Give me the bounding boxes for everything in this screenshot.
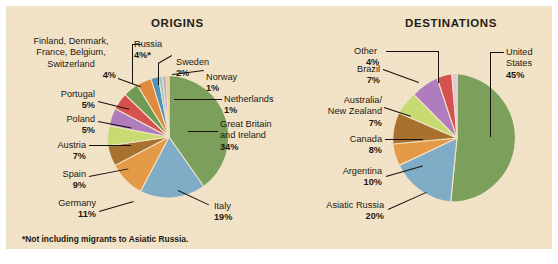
label-line-2: and Ireland (220, 130, 288, 141)
label-pct: 7% (14, 151, 86, 162)
label-text: Austria (14, 140, 86, 151)
label-destinations-brazil: Brazil 7% (312, 64, 380, 87)
leader-destinations-other-horizontal (386, 51, 438, 52)
leader-origins-russia (132, 44, 133, 84)
label-pct: 1% (206, 83, 260, 94)
label-origins-poland: Poland 5% (20, 114, 95, 137)
label-pct: 20% (294, 211, 384, 222)
label-origins-italy: Italy 19% (214, 201, 274, 224)
label-origins-austria: Austria 7% (14, 140, 86, 163)
label-pct: 5% (20, 125, 95, 136)
figure-panel: ORIGINS (6, 6, 552, 249)
label-pct: 10% (306, 177, 382, 188)
leader-origins-great-britain (188, 131, 218, 132)
label-origins-great-britain: Great Britain and Ireland 34% (220, 119, 288, 153)
pie-slice-united-states (451, 74, 516, 203)
label-line-2: States (506, 58, 558, 69)
label-pct: 1% (224, 105, 294, 116)
leader-destinations-united-states-horizontal (490, 52, 504, 53)
label-text: Brazil (312, 64, 380, 75)
leader-origins-sweden-vertical (158, 63, 159, 85)
leader-destinations-united-states (490, 52, 491, 137)
label-line-3: Switzerland (12, 59, 130, 70)
label-origins-germany: Germany 11% (20, 198, 96, 221)
label-pct: 5% (20, 100, 95, 111)
label-text: Argentina (306, 166, 382, 177)
label-line-2: France, Belgium, (12, 47, 130, 58)
label-text: Spain (20, 169, 86, 180)
label-text: Asiatic Russia (294, 200, 384, 211)
label-pct: 34% (220, 142, 288, 153)
leader-destinations-canada (385, 139, 423, 140)
label-destinations-australia-new-zealand: Australia/ New Zealand 7% (302, 95, 382, 129)
label-line-1: United (506, 47, 558, 58)
leader-origins-austria (89, 145, 131, 146)
label-pct: 9% (20, 180, 86, 191)
label-line-2: New Zealand (302, 106, 382, 117)
label-destinations-united-states: United States 45% (506, 47, 558, 81)
label-text: Netherlands (224, 94, 294, 105)
leader-origins-russia-horizontal (132, 44, 142, 45)
figure-root: ORIGINS (0, 0, 558, 264)
label-origins-russia: Russia 4%* (134, 39, 186, 62)
label-origins-portugal: Portugal 5% (20, 89, 95, 112)
label-destinations-canada: Canada 8% (312, 134, 382, 157)
pie-chart-destinations (387, 68, 527, 208)
label-origins-netherlands: Netherlands 1% (224, 94, 294, 117)
label-pct: 7% (302, 118, 382, 129)
label-text: Portugal (20, 89, 95, 100)
label-pct: 19% (214, 212, 274, 223)
chart-title-origins: ORIGINS (151, 17, 204, 29)
label-pct: 7% (312, 75, 380, 86)
label-pct: 4% (12, 70, 130, 81)
label-origins-spain: Spain 9% (20, 169, 86, 192)
label-text: Germany (20, 198, 96, 209)
label-text: Poland (20, 114, 95, 125)
label-pct: 45% (506, 70, 558, 81)
label-destinations-argentina: Argentina 10% (306, 166, 382, 189)
label-line-1: Finland, Denmark, (12, 36, 130, 47)
leader-destinations-other (438, 51, 439, 83)
label-pct: 4%* (134, 50, 186, 61)
label-origins-finland-group: Finland, Denmark, France, Belgium, Switz… (12, 36, 130, 82)
label-destinations-asiatic-russia: Asiatic Russia 20% (294, 200, 384, 223)
label-line-1: Great Britain (220, 119, 288, 130)
label-pct: 8% (312, 145, 382, 156)
label-line-1: Australia/ (302, 95, 382, 106)
leader-origins-netherlands (174, 99, 222, 100)
label-pct: 11% (20, 209, 96, 220)
label-pct: 2% (176, 68, 228, 79)
chart-title-destinations: DESTINATIONS (405, 17, 497, 29)
footnote: *Not including migrants to Asiatic Russi… (22, 234, 188, 244)
label-text: Italy (214, 201, 274, 212)
label-text: Canada (312, 134, 382, 145)
